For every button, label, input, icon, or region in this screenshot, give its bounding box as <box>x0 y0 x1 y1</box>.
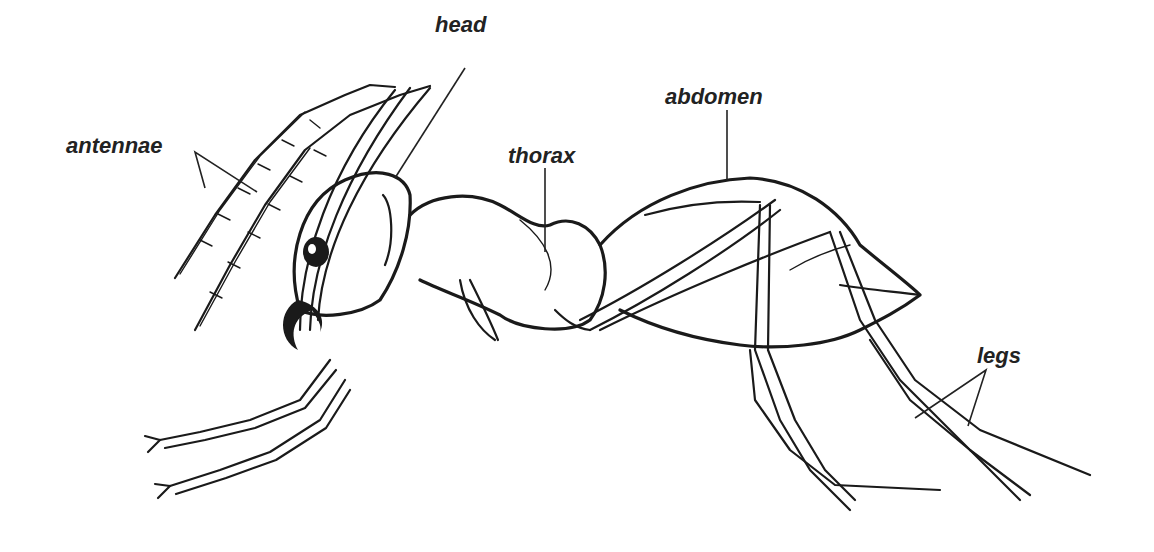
legs-drawing <box>145 200 1090 510</box>
label-antennae: antennae <box>66 135 163 157</box>
antennae-drawing <box>175 85 430 330</box>
label-head: head <box>435 14 486 36</box>
head-leader <box>395 68 465 178</box>
head-drawing <box>283 173 410 350</box>
ant-diagram: head antennae thorax abdomen legs <box>0 0 1154 552</box>
thorax-drawing <box>410 196 605 340</box>
abdomen-drawing <box>600 178 920 347</box>
label-abdomen: abdomen <box>665 86 763 108</box>
ant-illustration <box>0 0 1154 552</box>
label-legs: legs <box>977 345 1021 367</box>
legs-leader <box>915 370 986 426</box>
label-thorax: thorax <box>508 145 575 167</box>
